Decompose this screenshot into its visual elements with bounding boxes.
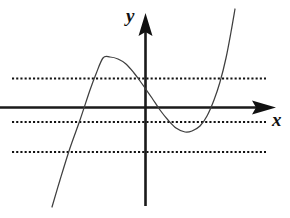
cubic-function-graph: y x: [0, 0, 290, 218]
graph-canvas: [0, 0, 290, 218]
y-axis-label: y: [126, 6, 134, 25]
gridline-group: [12, 79, 266, 153]
x-axis-label: x: [272, 110, 282, 129]
x-axis: [0, 101, 276, 115]
y-axis: [139, 13, 153, 206]
